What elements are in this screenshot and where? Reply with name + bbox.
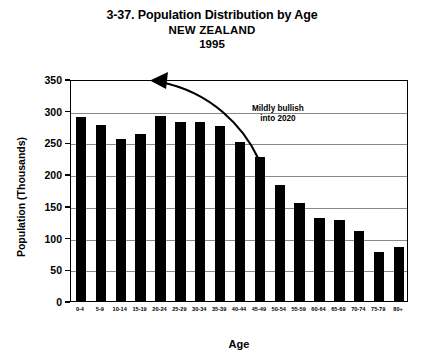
x-axis-tick-label: 80+: [388, 305, 408, 313]
y-axis-tick-label: 300: [44, 106, 65, 118]
x-axis-tick-label: 70-74: [348, 305, 368, 313]
y-axis-tick-label: 50: [50, 264, 65, 276]
y-axis: 350300250200150100500: [0, 80, 70, 302]
x-axis-tick-label: 5-9: [90, 305, 110, 313]
chart-title: 3-37. Population Distribution by Age: [0, 8, 424, 23]
bar: [175, 122, 185, 302]
x-axis: 0-45-910-1415-1920-2425-2930-3435-3940-4…: [70, 305, 408, 319]
y-axis-tick: 300: [44, 106, 70, 118]
bar: [374, 252, 384, 301]
chart-title-block: 3-37. Population Distribution by Age NEW…: [0, 8, 424, 51]
bar: [334, 220, 344, 301]
bar: [135, 134, 145, 301]
bar: [76, 117, 86, 301]
x-axis-tick-label: 60-64: [309, 305, 329, 313]
y-axis-tick: 50: [50, 264, 70, 276]
bar: [354, 231, 364, 301]
x-axis-tick-label: 10-14: [110, 305, 130, 313]
x-axis-tick-label: 30-34: [189, 305, 209, 313]
annotation-text: Mildly bullish into 2020: [252, 104, 304, 124]
y-axis-tick-label: 250: [44, 137, 65, 149]
x-axis-tick-label: 45-49: [249, 305, 269, 313]
bar: [116, 139, 126, 301]
chart-subtitle: NEW ZEALAND: [0, 23, 424, 37]
bar: [215, 126, 225, 301]
x-axis-tick-label: 25-29: [169, 305, 189, 313]
y-axis-tick-label: 100: [44, 233, 65, 245]
bar: [96, 125, 106, 301]
bar: [394, 247, 404, 301]
chart-year-label: 1995: [0, 37, 424, 51]
y-axis-tick: 150: [44, 201, 70, 213]
x-axis-tick-label: 15-19: [130, 305, 150, 313]
x-axis-tick-label: 35-39: [209, 305, 229, 313]
bar: [235, 142, 245, 301]
y-axis-tick: 250: [44, 137, 70, 149]
y-axis-tick-label: 150: [44, 201, 65, 213]
bars-layer: [71, 81, 407, 301]
x-axis-tick-label: 50-54: [269, 305, 289, 313]
y-axis-tick: 100: [44, 233, 70, 245]
x-axis-tick-label: 75-79: [368, 305, 388, 313]
annotation-line-1: Mildly bullish: [252, 104, 304, 114]
x-axis-tick-label: 65-69: [328, 305, 348, 313]
y-axis-tick-label: 0: [56, 296, 65, 308]
bar: [294, 203, 304, 301]
plot-area: [70, 80, 408, 302]
bar: [314, 218, 324, 301]
annotation-line-2: into 2020: [252, 114, 304, 124]
y-axis-tick-label: 200: [44, 169, 65, 181]
y-axis-tick-label: 350: [44, 74, 65, 86]
y-axis-tick: 200: [44, 169, 70, 181]
bar: [255, 157, 265, 301]
x-axis-tick-label: 20-24: [150, 305, 170, 313]
y-axis-title: Population (Thousands): [15, 102, 27, 292]
x-axis-tick-label: 55-59: [289, 305, 309, 313]
bar: [275, 185, 285, 301]
bar: [195, 122, 205, 301]
bar: [155, 116, 165, 301]
y-axis-tick: 350: [44, 74, 70, 86]
x-axis-tick-label: 0-4: [70, 305, 90, 313]
chart-figure: 3-37. Population Distribution by Age NEW…: [0, 0, 424, 364]
y-axis-tick: 0: [56, 296, 70, 308]
x-axis-tick-label: 40-44: [229, 305, 249, 313]
x-axis-title: Age: [70, 338, 408, 350]
